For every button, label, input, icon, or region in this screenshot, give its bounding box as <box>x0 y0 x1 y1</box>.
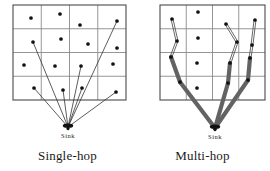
sensor-node <box>253 18 257 22</box>
caption-single-hop: Single-hop <box>0 148 135 164</box>
sensor-node <box>78 23 82 27</box>
sensor-node <box>195 61 199 65</box>
sensor-node <box>196 10 200 14</box>
link-thin <box>225 24 236 42</box>
sensor-node <box>29 16 33 20</box>
single-hop-sink <box>63 124 73 131</box>
sensor-node <box>80 86 84 90</box>
sensor-node <box>86 42 90 46</box>
sensor-node <box>32 86 36 90</box>
sensor-node <box>53 64 57 68</box>
sensor-node <box>235 40 239 44</box>
sensor-node <box>195 86 199 90</box>
sink-label: Sink <box>61 132 75 139</box>
single-hop-links <box>33 21 117 127</box>
sensor-node <box>196 36 200 40</box>
sink-node <box>66 127 69 130</box>
sensor-node <box>58 12 62 16</box>
multi-hop-links <box>170 19 256 128</box>
sensor-node <box>170 17 174 21</box>
single-hop-diagram: Sink <box>0 0 135 150</box>
multi-hop-grid <box>160 5 265 100</box>
panel-multi-hop: Sink Multi-hop <box>135 0 270 171</box>
sensor-node <box>114 90 118 94</box>
sensor-node <box>175 39 179 43</box>
link-thin <box>68 92 116 127</box>
panel-single-hop: Sink Single-hop <box>0 0 135 171</box>
sink-node <box>213 128 216 131</box>
link-thin <box>227 24 238 42</box>
link-thin <box>251 45 253 58</box>
multi-hop-sink <box>210 125 220 132</box>
sensor-node <box>59 37 63 41</box>
multi-hop-nodes <box>169 10 257 90</box>
link-thick <box>248 58 250 80</box>
sensor-node <box>115 19 119 23</box>
link-thin <box>34 88 68 127</box>
sensor-node <box>115 46 119 50</box>
link-thin <box>68 21 117 127</box>
sensor-node <box>224 22 228 26</box>
sensor-node <box>79 64 83 68</box>
link-thick <box>171 57 180 82</box>
link-thin <box>33 42 68 127</box>
sensor-node <box>169 55 173 59</box>
sensor-node <box>250 43 254 47</box>
multi-hop-diagram: Sink <box>135 0 270 150</box>
sensor-node <box>111 62 115 66</box>
single-hop-nodes <box>22 12 119 94</box>
sink-label: Sink <box>208 133 222 140</box>
caption-multi-hop: Multi-hop <box>135 148 270 164</box>
sensor-node <box>246 78 250 82</box>
sensor-node <box>248 56 252 60</box>
sensor-node <box>22 63 26 67</box>
link-thick <box>228 63 230 83</box>
sensor-node <box>226 81 230 85</box>
sensor-node <box>31 40 35 44</box>
sensor-node <box>61 88 65 92</box>
sensor-node <box>228 61 232 65</box>
figure-network-topologies: Sink Single-hop Sink Multi-hop <box>0 0 270 171</box>
sensor-node <box>178 80 182 84</box>
